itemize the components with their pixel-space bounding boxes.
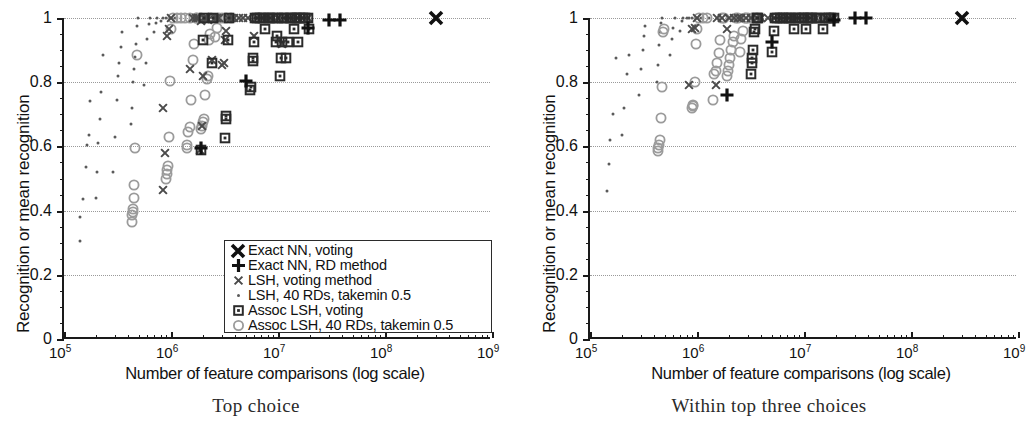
data-point-marker xyxy=(128,142,141,155)
data-point-marker xyxy=(748,45,759,56)
data-point-marker xyxy=(652,138,665,151)
gridline-y xyxy=(64,211,490,212)
y-axis-minor-tick xyxy=(60,162,64,163)
x-axis-minor-tick xyxy=(487,335,488,338)
data-point-marker xyxy=(130,48,143,61)
data-point-marker xyxy=(668,52,673,57)
data-point-marker xyxy=(199,89,212,102)
data-point-marker xyxy=(194,122,207,135)
data-point-marker xyxy=(766,46,777,57)
y-axis-tick xyxy=(583,146,590,148)
y-axis-tick xyxy=(57,275,64,277)
x-axis-minor-tick xyxy=(680,335,681,338)
x-axis-minor-tick xyxy=(1008,335,1009,338)
data-point-marker xyxy=(152,30,157,35)
data-point-marker xyxy=(281,53,292,64)
x-axis-minor-tick xyxy=(203,335,204,338)
data-point-marker xyxy=(209,31,222,44)
y-axis-tick-label: 0.6 xyxy=(530,137,578,155)
y-axis-tick-label: 0 xyxy=(4,330,52,348)
x-axis-minor-tick xyxy=(943,335,944,338)
y-axis-minor-tick xyxy=(586,195,590,196)
open-circle-icon xyxy=(228,318,248,333)
data-point-marker xyxy=(164,74,177,87)
x-axis-minor-tick xyxy=(310,335,311,338)
data-point-marker xyxy=(128,121,133,126)
data-point-marker xyxy=(247,56,258,67)
y-axis-minor-tick xyxy=(60,227,64,228)
legend-box: Exact NN, votingExact NN, RD methodLSH, … xyxy=(224,240,492,333)
y-axis-minor-tick xyxy=(586,114,590,115)
data-point-marker xyxy=(275,53,286,64)
x-axis-minor-tick xyxy=(254,335,255,338)
data-point-marker xyxy=(248,53,259,64)
data-point-marker xyxy=(180,142,193,155)
data-point-marker xyxy=(131,67,136,72)
x-axis-minor-tick xyxy=(361,335,362,338)
gridline-y xyxy=(590,18,1016,19)
data-point-marker xyxy=(100,52,105,57)
data-point-marker xyxy=(669,36,674,41)
x-axis-minor-tick xyxy=(468,335,469,338)
data-point-marker xyxy=(817,24,828,35)
data-point-marker xyxy=(183,121,196,134)
data-point-marker xyxy=(198,70,209,81)
data-point-marker xyxy=(217,59,228,70)
data-point-marker xyxy=(181,138,194,151)
y-axis-minor-tick xyxy=(586,307,590,308)
x-axis-minor-tick xyxy=(139,335,140,338)
data-point-marker xyxy=(129,105,134,110)
y-axis-tick xyxy=(57,82,64,84)
data-point-marker xyxy=(801,24,812,35)
legend-item: LSH, 40 RDs, takemin 0.5 xyxy=(228,288,487,303)
data-point-marker xyxy=(671,25,676,30)
x-axis-minor-tick xyxy=(246,335,247,338)
y-axis-minor-tick xyxy=(586,34,590,35)
data-point-marker xyxy=(691,23,704,36)
y-axis-minor-tick xyxy=(60,66,64,67)
x-axis-tick xyxy=(64,332,66,338)
data-point-marker xyxy=(304,24,315,35)
y-axis-tick-label: 0.4 xyxy=(530,202,578,220)
data-point-marker xyxy=(88,99,93,104)
panel-caption: Within top three choices xyxy=(513,395,1025,417)
x-axis-tick-label: 105 xyxy=(575,343,597,361)
data-point-marker xyxy=(679,19,684,24)
data-point-marker xyxy=(622,105,627,110)
x-axis-minor-tick xyxy=(449,335,450,338)
x-axis-minor-tick xyxy=(673,335,674,338)
y-axis-minor-tick xyxy=(60,179,64,180)
x-axis-minor-tick xyxy=(994,335,995,338)
y-axis-tick xyxy=(57,211,64,213)
plot-area-within-top-three xyxy=(588,18,1016,339)
x-axis-minor-tick xyxy=(687,335,688,338)
data-point-marker xyxy=(164,24,175,35)
legend-item: Assoc LSH, 40 RDs, takemin 0.5 xyxy=(228,318,487,333)
filled-square-icon xyxy=(228,303,248,318)
data-point-marker xyxy=(656,43,661,48)
data-point-marker xyxy=(277,38,288,49)
data-point-marker xyxy=(98,89,103,94)
data-point-marker xyxy=(709,64,722,77)
data-point-marker xyxy=(193,141,208,156)
x-axis-minor-tick xyxy=(375,335,376,338)
x-axis-minor-tick xyxy=(436,335,437,338)
data-point-marker xyxy=(726,36,739,49)
data-point-marker xyxy=(111,170,116,175)
x-axis-minor-tick xyxy=(761,335,762,338)
data-point-marker xyxy=(657,23,670,36)
legend-item-label: Assoc LSH, voting xyxy=(248,303,363,318)
data-point-marker xyxy=(158,102,169,113)
y-axis-tick-label: 0.8 xyxy=(4,73,52,91)
data-point-marker xyxy=(652,142,665,155)
x-axis-minor-tick xyxy=(475,335,476,338)
y-axis-tick-label: 1 xyxy=(530,9,578,27)
y-axis-minor-tick xyxy=(60,195,64,196)
legend-item: LSH, voting method xyxy=(228,273,487,288)
x-axis-minor-tick xyxy=(836,335,837,338)
data-point-marker xyxy=(117,60,122,65)
y-axis-minor-tick xyxy=(586,98,590,99)
data-point-marker xyxy=(750,24,761,35)
gridline-y xyxy=(590,146,1016,147)
bold-plus-icon xyxy=(228,258,248,273)
